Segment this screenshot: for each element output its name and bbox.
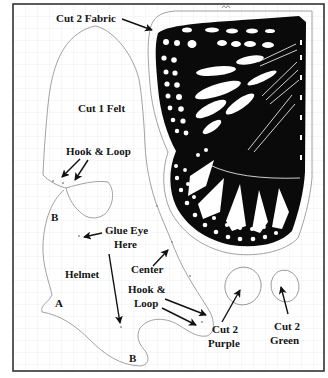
label-green-color: Green — [270, 334, 299, 346]
label-mark-b-top: B — [51, 211, 59, 223]
pattern-sheet: Cut 2 Fabric Cut 1 Felt Hook & Loop B Gl… — [0, 0, 328, 378]
label-cut-1-felt: Cut 1 Felt — [78, 102, 125, 114]
label-glue-here: Here — [114, 238, 137, 250]
label-mark-a: A — [55, 297, 63, 309]
label-hook-loop-top: Hook & Loop — [66, 145, 131, 157]
label-center: Center — [131, 263, 163, 275]
label-glue-eye: Glue Eye — [105, 224, 148, 236]
label-helmet: Helmet — [65, 268, 100, 280]
label-mark-b-bottom: B — [129, 352, 137, 364]
label-purple-cut: Cut 2 — [212, 323, 238, 335]
label-loop: Loop — [134, 297, 158, 309]
label-purple-color: Purple — [208, 337, 240, 349]
label-hook-amp: Hook & — [128, 283, 166, 295]
label-cut-2-fabric: Cut 2 Fabric — [56, 12, 116, 24]
label-green-cut: Cut 2 — [274, 320, 300, 332]
